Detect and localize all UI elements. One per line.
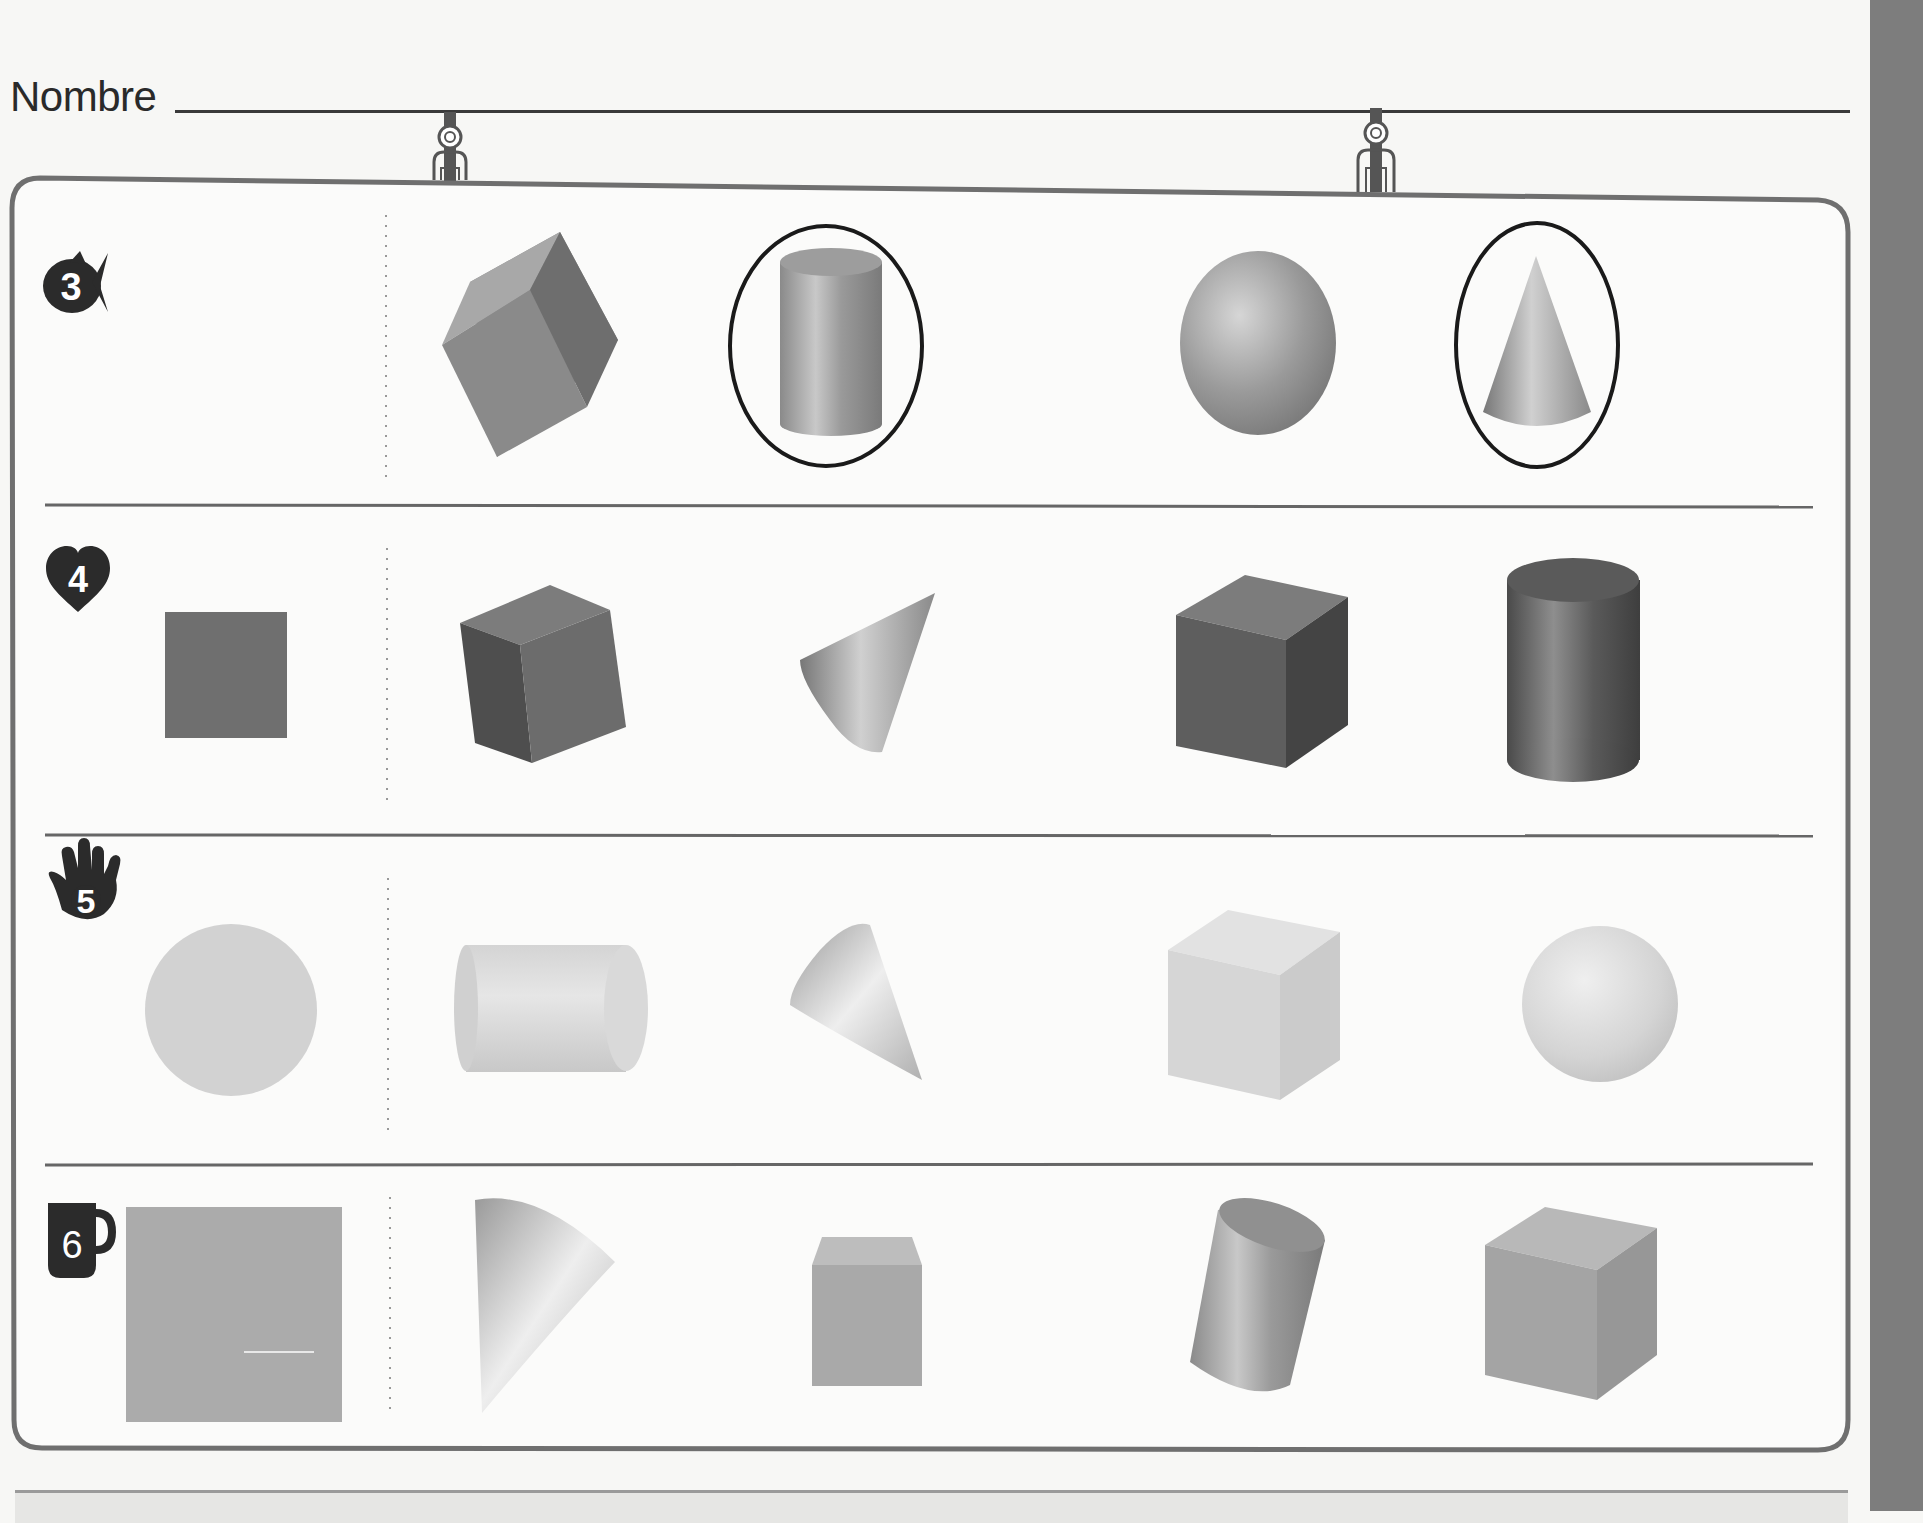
row-number: 4 (68, 559, 88, 600)
option-cube[interactable] (1168, 910, 1340, 1100)
option-sphere[interactable] (1522, 926, 1678, 1082)
row-number: 6 (61, 1224, 82, 1266)
hanger-clip-right (1358, 108, 1394, 192)
hanger-clip-left (434, 112, 466, 182)
option-cube[interactable] (1176, 575, 1348, 768)
row-divider (45, 1164, 1813, 1165)
row-number: 3 (60, 266, 81, 308)
reference-circle (145, 924, 317, 1096)
option-cube[interactable] (1485, 1207, 1657, 1400)
reference-square (126, 1207, 342, 1422)
reference-square (165, 612, 287, 738)
option-cube[interactable] (812, 1237, 922, 1386)
option-cylinder[interactable] (454, 945, 648, 1072)
row-number: 5 (77, 882, 96, 920)
option-sphere[interactable] (1180, 251, 1336, 435)
option-cylinder[interactable] (1507, 558, 1640, 782)
row-divider (45, 505, 1813, 507)
option-cylinder[interactable] (780, 248, 882, 436)
row-divider (45, 835, 1813, 836)
